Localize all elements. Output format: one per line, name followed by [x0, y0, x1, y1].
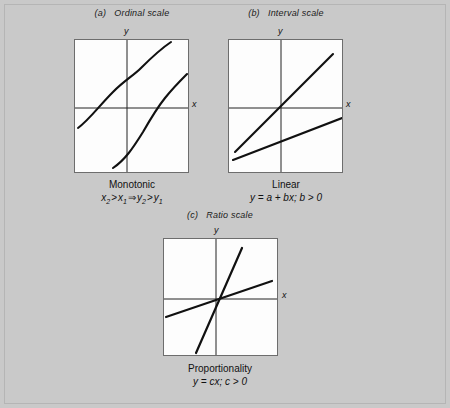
panel-b-plot-area: [228, 39, 343, 173]
panel-c-plot-svg: [164, 239, 277, 355]
panel-b-x-axis-label: x: [346, 99, 351, 109]
panel-b-title: (b) Interval scale: [216, 8, 356, 18]
panel-a-caption: Monotonic x2>x1⇒y2>y1: [62, 178, 202, 208]
panel-c-plot-area: [163, 238, 278, 356]
figure-canvas: (a) Ordinal scale y x Monotonic x2>x1⇒y2…: [0, 0, 450, 408]
panel-b-caption-formula: y = a + bx; b > 0: [216, 191, 356, 204]
panel-b-caption: Linear y = a + bx; b > 0: [216, 178, 356, 204]
panel-a-title: (a) Ordinal scale: [62, 8, 202, 18]
panel-b-caption-name: Linear: [216, 178, 356, 191]
panel-a-x-axis-label: x: [192, 99, 197, 109]
panel-b-tag: (b): [248, 8, 260, 18]
panel-b-line-steep: [235, 54, 333, 152]
panel-a-tag: (a): [95, 8, 107, 18]
panel-c-caption: Proportionality y = cx; c > 0: [140, 362, 300, 388]
panel-c-y-axis-label: y: [214, 225, 219, 235]
panel-a-formula-rel2: >: [146, 192, 154, 203]
panel-b-title-text: Interval scale: [268, 8, 324, 18]
panel-a-caption-formula: x2>x1⇒y2>y1: [62, 191, 202, 208]
panel-c-title: (c) Ratio scale: [140, 210, 300, 220]
panel-c-title-text: Ratio scale: [206, 210, 253, 220]
panel-a-formula-implies: ⇒: [127, 192, 137, 203]
panel-c-tag: (c): [187, 210, 198, 220]
panel-c-caption-name: Proportionality: [140, 362, 300, 375]
panel-a-plot-area: [74, 39, 189, 173]
panel-b-plot-svg: [229, 40, 342, 172]
panel-c-line-steep: [196, 248, 242, 353]
panel-a-caption-name: Monotonic: [62, 178, 202, 191]
panel-a-curve-2: [113, 74, 187, 168]
panel-b-y-axis-label: y: [278, 26, 283, 36]
panel-ordinal-scale: (a) Ordinal scale y x Monotonic x2>x1⇒y2…: [62, 8, 202, 204]
panel-interval-scale: (b) Interval scale y x Linear y = a + bx…: [216, 8, 356, 204]
panel-a-title-text: Ordinal scale: [114, 8, 169, 18]
panel-a-formula-rel1: >: [110, 192, 118, 203]
panel-a-y-axis-label: y: [124, 26, 129, 36]
panel-a-formula-y1-sub: 1: [159, 198, 163, 205]
panel-ratio-scale: (c) Ratio scale y x Proportionality y = …: [140, 210, 300, 400]
panel-c-x-axis-label: x: [282, 290, 287, 300]
panel-a-plot-svg: [75, 40, 188, 172]
panel-c-caption-formula: y = cx; c > 0: [140, 375, 300, 388]
panel-a-curve-1: [78, 42, 171, 128]
